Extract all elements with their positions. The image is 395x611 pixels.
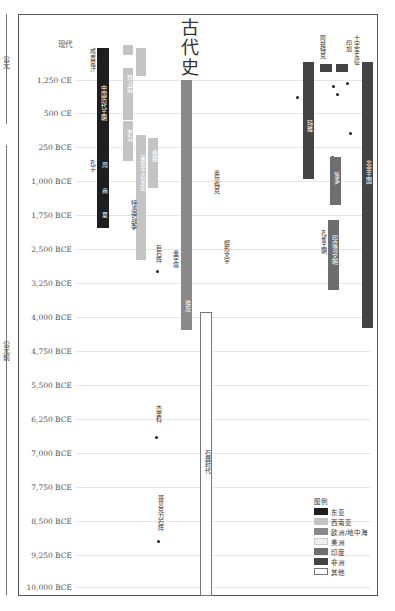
tick-label: 9,250 BCE (22, 551, 72, 560)
tick-label: 7,000 BCE (22, 449, 72, 458)
bar-label: 商 (100, 188, 109, 194)
event-dot (332, 85, 335, 88)
gridline (76, 215, 371, 216)
tick-label: 6,250 BCE (22, 415, 72, 424)
bar-label: 夏 (100, 212, 109, 218)
bce-era-line (6, 145, 7, 595)
bar-meso (136, 135, 146, 260)
bar-label: 中国历代王朝 (99, 85, 108, 121)
gridline (76, 419, 371, 420)
event-dot (336, 93, 339, 96)
tick-label: 500 CE (22, 109, 72, 118)
legend-item: 其他 (314, 567, 368, 576)
legend-title: 图例 (314, 496, 368, 506)
legend-item: 印度 (314, 547, 368, 556)
gridline (76, 80, 371, 81)
bar-greek (148, 138, 158, 188)
legend-item: 欧洲/地中海 (314, 527, 368, 536)
tick-label: 3,250 BCE (22, 279, 72, 288)
bar-egypt (181, 80, 192, 330)
bar-label: 石器时代 (203, 450, 212, 474)
gridline (76, 351, 371, 352)
gridline (76, 181, 371, 182)
bar-crusade (336, 64, 348, 72)
legend-swatch (314, 518, 328, 525)
legend-swatch (314, 548, 328, 555)
bar-china-dynasties (97, 48, 109, 228)
event-label: 孔子 (88, 160, 97, 172)
legend-label: 东亚 (331, 507, 345, 517)
event-label: 杰里科 (154, 405, 163, 423)
tick-label: 8,500 BCE (22, 517, 72, 526)
event-dot (157, 540, 160, 543)
bar-label: 希腊 (150, 150, 159, 162)
event-label: 成吉思汗 (88, 48, 97, 72)
tick-label: 1,000 BCE (22, 177, 72, 186)
legend-label: 印度 (331, 547, 345, 557)
legend-label: 非洲 (331, 557, 345, 567)
event-label: 楔形文字 (222, 240, 231, 264)
bar-label: 罗马 (125, 130, 134, 142)
tick-label: 7,750 BCE (22, 483, 72, 492)
event-label: 金字塔 (171, 250, 180, 268)
gridline (76, 587, 371, 588)
legend-swatch (314, 528, 328, 535)
tick-label: 4,000 BCE (22, 313, 72, 322)
event-dot (296, 96, 299, 99)
tick-label: 1,750 BCE (22, 211, 72, 220)
legend-label: 美洲 (331, 537, 345, 547)
event-label: 巨石阵 (154, 245, 163, 263)
legend-swatch (314, 508, 328, 515)
event-dot (346, 82, 349, 85)
event-label: 孔雀王朝 (319, 230, 328, 254)
bar-label: 周 (100, 162, 109, 168)
legend-swatch (314, 558, 328, 565)
bar-label: 埃及 (183, 300, 192, 312)
bar-label: 北非王国 (364, 160, 373, 184)
tick-label: 5,500 BCE (22, 381, 72, 390)
event-dot (156, 270, 159, 273)
gridline (76, 487, 371, 488)
legend-item: 非洲 (314, 557, 368, 566)
event-label: 十字军东征 (352, 35, 361, 65)
legend-label: 西南亚 (331, 517, 352, 527)
gridline (76, 385, 371, 386)
event-dot (155, 436, 158, 439)
bar-north-africa (362, 62, 373, 328)
gridline (76, 283, 371, 284)
gridline (76, 453, 371, 454)
bar-label: 美索不达米亚 (138, 155, 147, 191)
event-label: 哥贝克力石阵 (156, 495, 165, 531)
legend: 图例 东亚 西南亚 欧洲/地中海 美洲 印度 非洲 其他 (314, 496, 368, 576)
bar-persia (136, 48, 146, 76)
event-dot (349, 132, 352, 135)
gridline (76, 147, 371, 148)
ce-era-line (6, 14, 7, 124)
bce-era-label: 公元前 (1, 340, 11, 361)
legend-swatch (314, 568, 328, 575)
bar-islam (320, 64, 332, 72)
bar-label: 拜占庭 (125, 75, 134, 93)
bar-label: 印度河文明 (330, 235, 339, 265)
legend-label: 欧洲/地中海 (331, 527, 368, 537)
event-label: 奥尔梅克 (212, 170, 221, 194)
ce-era-label: 公元 (1, 55, 11, 69)
gridline (76, 113, 371, 114)
tick-label: 4,750 BCE (22, 347, 72, 356)
gridline (76, 317, 371, 318)
bar-label: 笈多 (332, 172, 341, 184)
tick-label: 现代 (22, 38, 72, 49)
bar-byzantine (123, 45, 133, 55)
legend-swatch (314, 538, 328, 545)
legend-item: 东亚 (314, 507, 368, 516)
legend-item: 美洲 (314, 537, 368, 546)
event-label: 特洛伊战争 (129, 200, 138, 230)
tick-label: 2,500 BCE (22, 245, 72, 254)
chart-title: 古代史 (175, 18, 201, 78)
legend-item: 西南亚 (314, 517, 368, 526)
tick-label: 10,000 BCE (22, 583, 72, 592)
tick-label: 250 BCE (22, 143, 72, 152)
bar-label: 玛雅 (305, 120, 314, 132)
legend-label: 其他 (331, 567, 345, 577)
event-label: 阿兹特克 (318, 35, 327, 59)
